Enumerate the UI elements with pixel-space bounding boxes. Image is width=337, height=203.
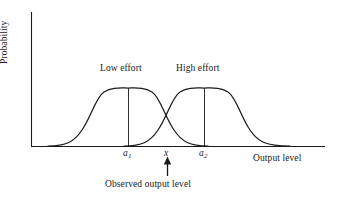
observed-output-level-caption: Observed output level	[105, 180, 191, 190]
high-effort-curve-label: High effort	[176, 64, 219, 74]
up-arrow-icon	[164, 157, 171, 177]
tick-a2-subscript: 2	[204, 152, 208, 160]
y-axis-title: Probability	[0, 50, 10, 64]
tick-a1-subscript: 1	[128, 152, 132, 160]
figure-canvas	[0, 0, 337, 203]
x-axis-title: Output level	[253, 154, 301, 164]
low-effort-curve-label: Low effort	[100, 64, 142, 74]
low-effort-curve	[48, 88, 208, 146]
high-effort-curve	[124, 88, 290, 146]
probability-distributions-figure: Probability Output level Low effort High…	[0, 0, 337, 203]
axis-tick-label-a2: a2	[199, 149, 207, 160]
axis-tick-label-a1: a1	[123, 149, 131, 160]
axis-tick-label-x: x	[164, 149, 168, 159]
